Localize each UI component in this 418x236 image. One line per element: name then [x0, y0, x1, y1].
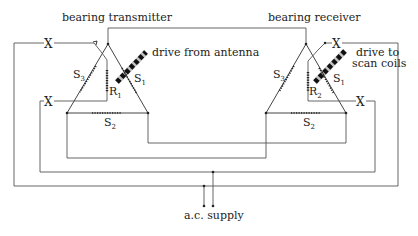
receiver-label: bearing receiver: [268, 11, 361, 24]
receiver-s2-label: S2: [303, 116, 315, 131]
transmitter-s3-label: S3: [73, 68, 85, 83]
drive-from-antenna-label: drive from antenna: [152, 46, 260, 59]
wire-rotor-upper: [14, 43, 398, 186]
synchro-diagram: X X X X bearing transmitter bearing rece…: [0, 0, 418, 236]
transmitter-r1-label: R1: [109, 85, 122, 100]
supply-label: a.c. supply: [184, 209, 245, 222]
cross-marker-rx-lower: X: [356, 95, 365, 109]
cross-marker-rx-upper: X: [332, 37, 341, 51]
transmitter-s1-label: S1: [134, 72, 146, 87]
receiver-s3-label: S3: [273, 68, 285, 83]
transmitter-label: bearing transmitter: [62, 11, 173, 24]
receiver-s1-label: S1: [333, 72, 345, 87]
wire-bottom-right-link: [148, 113, 346, 143]
cross-marker-tx-upper: X: [44, 37, 53, 51]
drive-to-label-line2: scan coils: [352, 57, 407, 70]
wire-bottom-left-link: [67, 113, 266, 158]
transmitter-s2-label: S2: [104, 116, 116, 131]
wire-rotor-lower: [40, 101, 375, 172]
cross-marker-tx-lower: X: [44, 95, 53, 109]
receiver-r2-label: R2: [309, 85, 322, 100]
wire-apex-link: [108, 28, 306, 44]
